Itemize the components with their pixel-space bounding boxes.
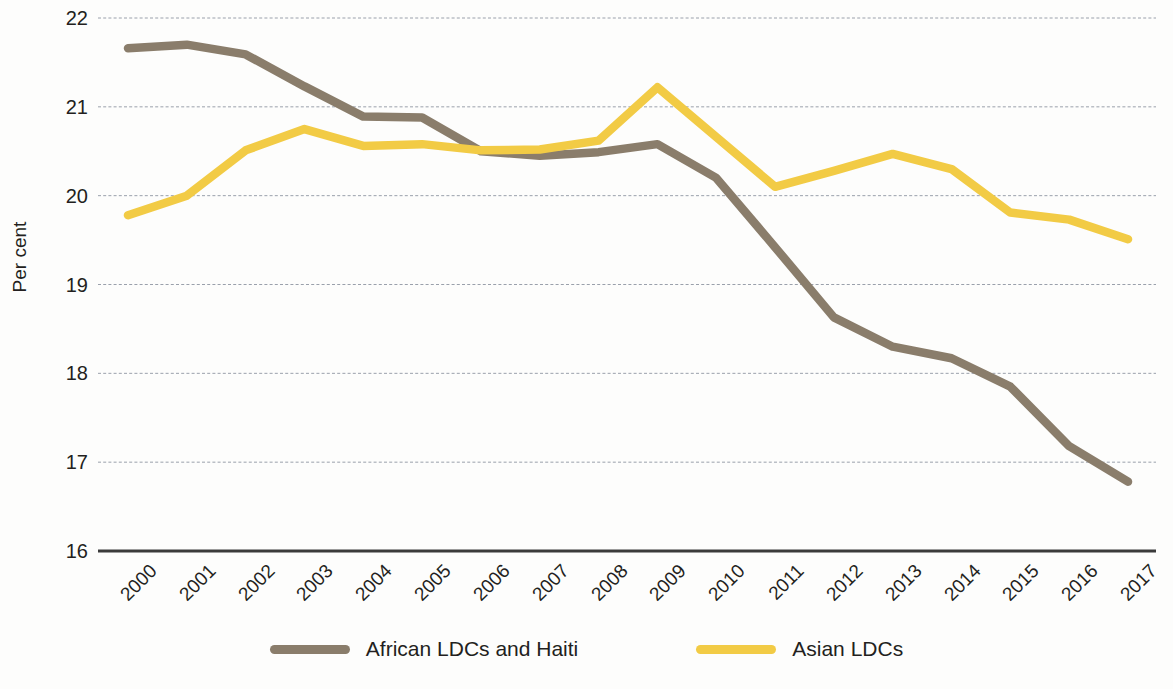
legend-item-0[interactable]: African LDCs and Haiti (270, 637, 578, 661)
y-tick-16: 16 (48, 541, 88, 561)
legend-item-1[interactable]: Asian LDCs (696, 637, 903, 661)
x-tick-2009: 2009 (609, 560, 691, 642)
chart-legend: African LDCs and HaitiAsian LDCs (0, 634, 1173, 664)
x-tick-2001: 2001 (138, 560, 220, 642)
x-tick-2012: 2012 (785, 560, 867, 642)
legend-label: Asian LDCs (792, 637, 903, 661)
legend-swatch-icon (696, 645, 776, 654)
x-tick-2010: 2010 (668, 560, 750, 642)
x-tick-2008: 2008 (550, 560, 632, 642)
x-tick-2011: 2011 (727, 560, 809, 642)
y-tick-18: 18 (48, 363, 88, 383)
x-tick-2007: 2007 (491, 560, 573, 642)
x-tick-2014: 2014 (903, 560, 985, 642)
legend-swatch-icon (270, 645, 350, 654)
chart-page: Per cent 16171819202122 2000200120022003… (0, 0, 1173, 689)
x-tick-2013: 2013 (844, 560, 926, 642)
x-tick-2016: 2016 (1021, 560, 1103, 642)
x-tick-2004: 2004 (315, 560, 397, 642)
x-tick-2005: 2005 (374, 560, 456, 642)
y-axis-title: Per cent (9, 207, 31, 307)
series-line-1 (128, 87, 1128, 239)
y-tick-22: 22 (48, 8, 88, 28)
x-tick-2002: 2002 (197, 560, 279, 642)
y-tick-20: 20 (48, 186, 88, 206)
x-tick-2003: 2003 (256, 560, 338, 642)
chart-svg (98, 18, 1156, 551)
source-note (8, 679, 1168, 689)
y-tick-19: 19 (48, 275, 88, 295)
plot-area (98, 18, 1156, 551)
y-tick-21: 21 (48, 97, 88, 117)
x-tick-2006: 2006 (432, 560, 514, 642)
x-tick-2017: 2017 (1080, 560, 1162, 642)
x-tick-2015: 2015 (962, 560, 1044, 642)
legend-label: African LDCs and Haiti (366, 637, 578, 661)
y-tick-17: 17 (48, 452, 88, 472)
x-tick-2000: 2000 (80, 560, 162, 642)
y-axis-tick-labels: 16171819202122 (38, 0, 88, 689)
